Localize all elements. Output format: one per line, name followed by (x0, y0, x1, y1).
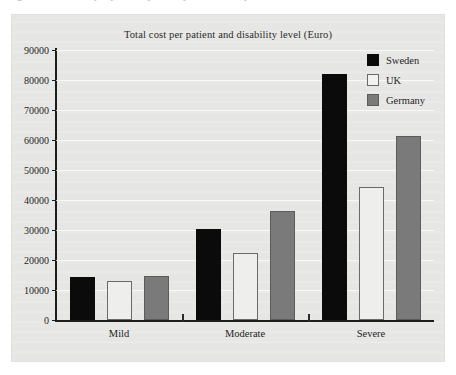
bar-uk-severe (359, 187, 384, 321)
y-axis-tick (52, 110, 56, 111)
y-axis-label: 20000 (24, 255, 49, 266)
legend-item-germany[interactable]: Germany (367, 90, 451, 110)
bar-germany-moderate (270, 211, 295, 321)
legend-item-sweden[interactable]: Sweden (367, 50, 451, 70)
bar-uk-mild (107, 281, 132, 320)
figure-container: Figure 2. Total cost per patient by coun… (0, 0, 456, 375)
gridline (56, 110, 434, 111)
legend-swatch-icon-sweden (367, 54, 379, 66)
legend-swatch-icon-germany (367, 94, 379, 106)
bar-uk-moderate (233, 253, 258, 320)
bar-germany-severe (396, 136, 421, 321)
gridline (56, 170, 434, 171)
legend-label: Germany (386, 95, 425, 106)
gridline (56, 140, 434, 141)
y-axis-label: 70000 (24, 105, 49, 116)
legend-swatch-icon-uk (367, 74, 379, 86)
y-axis-tick (52, 290, 56, 291)
x-axis-line (55, 320, 434, 322)
y-axis-label: 10000 (24, 285, 49, 296)
x-axis-label-moderate: Moderate (225, 328, 265, 339)
y-axis-label: 50000 (24, 165, 49, 176)
y-axis-tick (52, 80, 56, 81)
y-axis-label: 90000 (24, 45, 49, 56)
y-axis-tick (52, 320, 56, 321)
y-axis-label: 80000 (24, 75, 49, 86)
cropped-caption-text: Figure 2. Total cost per patient by coun… (8, 0, 273, 1)
x-axis-group-separator-tick (308, 314, 310, 322)
y-axis-label: 60000 (24, 135, 49, 146)
y-axis-tick (52, 50, 56, 51)
cropped-caption-sliver: Figure 2. Total cost per patient by coun… (0, 0, 456, 12)
y-axis-tick (52, 230, 56, 231)
y-axis-tick (52, 140, 56, 141)
y-axis-tick (52, 200, 56, 201)
legend-label: Sweden (386, 55, 419, 66)
x-axis-label-mild: Mild (109, 328, 129, 339)
chart-legend: SwedenUKGermany (367, 50, 451, 110)
y-axis-tick (52, 170, 56, 171)
y-axis-line (55, 48, 57, 322)
y-axis-label: 30000 (24, 225, 49, 236)
legend-item-uk[interactable]: UK (367, 70, 451, 90)
y-axis-label: 0 (44, 315, 49, 326)
chart-panel: Total cost per patient and disability le… (11, 14, 445, 362)
bar-germany-mild (144, 276, 169, 320)
bar-sweden-mild (70, 277, 95, 320)
bar-sweden-severe (322, 74, 347, 320)
y-axis-label: 40000 (24, 195, 49, 206)
x-axis-label-severe: Severe (357, 328, 386, 339)
bar-sweden-moderate (196, 229, 221, 320)
y-axis-tick (52, 260, 56, 261)
x-axis-group-separator-tick (182, 314, 184, 322)
legend-label: UK (386, 75, 401, 86)
chart-title: Total cost per patient and disability le… (11, 29, 445, 40)
